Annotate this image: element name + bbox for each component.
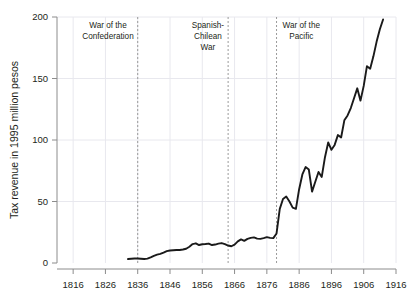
annotation-2-line-1: Pacific (289, 32, 313, 41)
x-tick-label-1916: 1916 (385, 279, 406, 290)
x-tick-label-1836: 1836 (127, 279, 148, 290)
y-tick-label-150: 150 (32, 73, 48, 84)
x-tick-label-1816: 1816 (63, 279, 84, 290)
chart-container: 050100150200 181618261836184618561866187… (0, 0, 413, 300)
x-tick-label-1856: 1856 (192, 279, 213, 290)
y-tick-label-0: 0 (43, 257, 48, 268)
x-tick-label-1876: 1876 (256, 279, 277, 290)
x-tick-label-1896: 1896 (321, 279, 342, 290)
x-tick-label-1866: 1866 (224, 279, 245, 290)
x-tick-label-1886: 1886 (289, 279, 310, 290)
annotation-1-line-0: Spanish- (192, 21, 225, 30)
x-tick-label-1846: 1846 (159, 279, 180, 290)
x-tick-label-1906: 1906 (353, 279, 374, 290)
annotation-2-line-0: War of the (283, 21, 321, 30)
y-tick-label-100: 100 (32, 134, 48, 145)
annotation-0-line-1: Confederation (82, 32, 134, 41)
x-tick-label-1826: 1826 (95, 279, 116, 290)
annotation-1-line-1: Chilean (194, 32, 222, 41)
annotation-1-line-2: War (201, 43, 216, 52)
tax-revenue-line-chart: 050100150200 181618261836184618561866187… (0, 0, 413, 300)
y-axis-label: Tax revenue in 1995 million pesos (8, 61, 20, 219)
y-tick-label-50: 50 (37, 196, 48, 207)
y-tick-label-200: 200 (32, 11, 48, 22)
annotation-0-line-0: War of the (89, 21, 127, 30)
